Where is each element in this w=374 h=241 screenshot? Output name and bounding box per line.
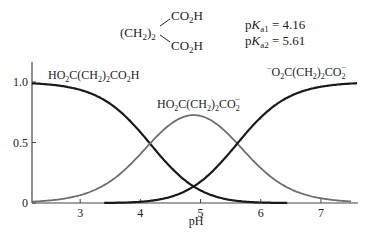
x-tick-label: 3	[77, 206, 83, 220]
label-a2: −O2C(CH2)2CO2−	[267, 63, 347, 81]
structure-formula: (CH2)2 CO2H CO2H	[120, 8, 203, 55]
y-tick-label: 1.0	[13, 75, 28, 89]
structure-bottom-group: CO2H	[171, 38, 203, 55]
bond-bottom	[160, 35, 170, 42]
series-labels: HO2C(CH2)2CO2H HO2C(CH2)2CO2− −O2C(CH2)2…	[48, 63, 347, 113]
y-tick-label: 0.5	[13, 136, 28, 150]
pka2-label: pKa2 = 5.61	[245, 33, 305, 50]
label-ha: HO2C(CH2)2CO2−	[157, 95, 241, 113]
pka-values: pKa1 = 4.16 pKa2 = 5.61	[245, 17, 306, 50]
x-tick-label: 4	[137, 206, 143, 220]
x-axis-label: pH	[189, 214, 204, 228]
pka1-label: pKa1 = 4.16	[245, 17, 306, 34]
y-tick-label: 0	[22, 196, 28, 210]
speciation-chart: (CH2)2 CO2H CO2H pKa1 = 4.16 pKa2 = 5.61…	[0, 0, 374, 241]
x-tick-label: 7	[318, 206, 324, 220]
bond-top	[160, 19, 170, 26]
structure-left-group: (CH2)2	[120, 25, 156, 42]
x-tick-label: 6	[258, 206, 264, 220]
label-h2a: HO2C(CH2)2CO2H	[48, 68, 140, 84]
structure-top-group: CO2H	[171, 8, 203, 25]
